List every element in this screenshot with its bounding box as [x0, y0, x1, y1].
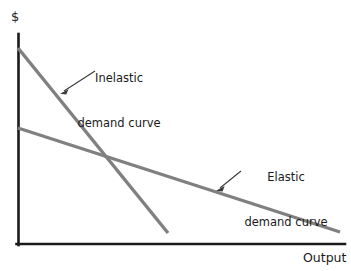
elastic-curve-label: Elastic demand curve — [241, 141, 331, 259]
inelastic-curve-label-line1: Inelastic — [76, 71, 162, 86]
elastic-annotation-arrow — [216, 171, 241, 192]
demand-curve-diagram: $ Output Inelastic demand curve Elastic … — [0, 0, 351, 271]
inelastic-curve-label-line2: demand curve — [76, 116, 162, 131]
y-axis-title: $ — [11, 9, 19, 26]
elastic-curve-label-line1: Elastic — [241, 170, 331, 185]
inelastic-curve-label: Inelastic demand curve — [76, 42, 162, 160]
elastic-curve-label-line2: demand curve — [241, 215, 331, 230]
